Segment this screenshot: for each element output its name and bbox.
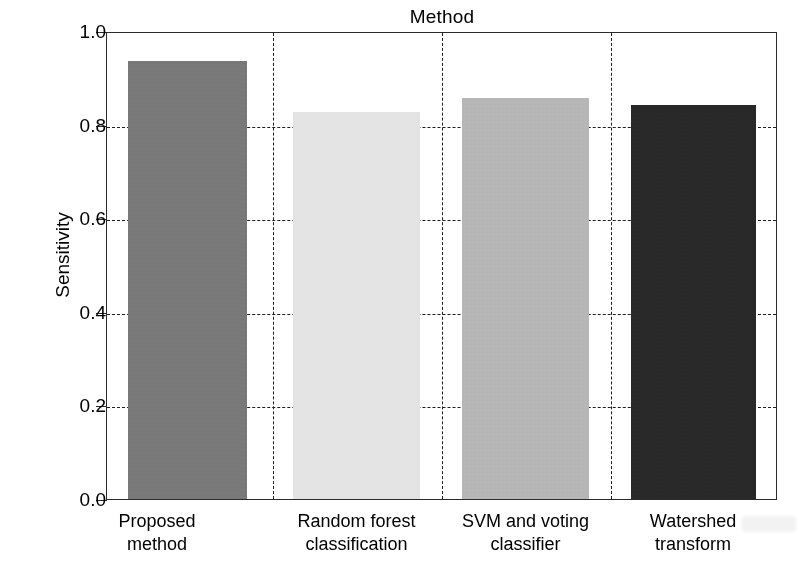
chart-title: Method (0, 6, 812, 28)
y-tick-label-1.0: 1.0 (44, 21, 106, 43)
y-tick-label-0.8: 0.8 (44, 115, 106, 137)
x-tick-label-line-1: SVM and voting (434, 510, 617, 533)
x-tick-label-line-2: transform (607, 533, 779, 556)
x-tick-label-line-2: method (67, 533, 247, 556)
category-separator-2 (442, 33, 443, 499)
y-tick-label-0.4: 0.4 (44, 302, 106, 324)
bar-svm-and-voting-classifier[interactable] (462, 98, 589, 499)
y-axis-ticks: 1.0 0.8 0.6 0.4 0.2 0.0 (28, 0, 106, 588)
x-tick-label-svm-and-voting-classifier: SVM and voting classifier (434, 510, 617, 556)
scan-artifact (742, 516, 796, 532)
x-tick-label-line-1: Random forest (265, 510, 448, 533)
y-tick-label-0.2: 0.2 (44, 395, 106, 417)
bar-random-forest-classification[interactable] (293, 112, 420, 499)
x-tick-label-line-2: classification (265, 533, 448, 556)
y-tick-label-0.0: 0.0 (44, 489, 106, 511)
category-separator-1 (273, 33, 274, 499)
x-tick-label-random-forest-classification: Random forest classification (265, 510, 448, 556)
y-tick-label-0.6: 0.6 (44, 208, 106, 230)
x-tick-label-line-1: Proposed (67, 510, 247, 533)
bar-proposed-method[interactable] (128, 61, 247, 499)
category-separator-3 (611, 33, 612, 499)
x-tick-label-line-2: classifier (434, 533, 617, 556)
bar-chart-figure: Method Sensitivity 1.0 0.8 0.6 0.4 0.2 0… (0, 0, 812, 588)
x-tick-label-proposed-method: Proposed method (67, 510, 247, 556)
plot-area (106, 32, 777, 500)
bar-watershed-transform[interactable] (631, 105, 756, 499)
